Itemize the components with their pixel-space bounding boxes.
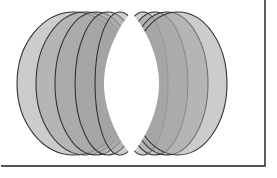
ellipse-rosette-figure <box>0 0 277 178</box>
figure-root <box>0 0 277 178</box>
ellipse-group <box>17 12 227 155</box>
